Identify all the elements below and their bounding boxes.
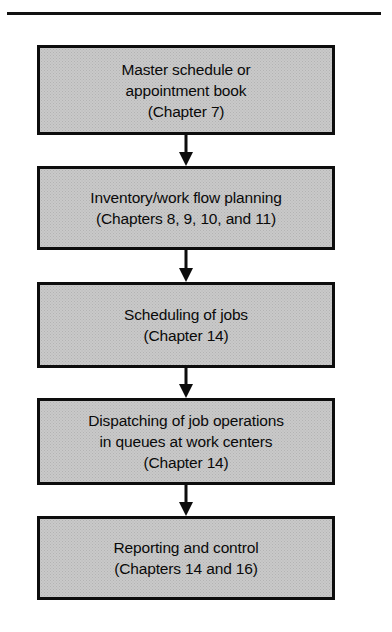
node-text-line: Inventory/work flow planning — [90, 187, 281, 208]
node-text-line: in queues at work centers — [100, 431, 273, 452]
arrow-stem — [185, 135, 188, 153]
node-text-line: Scheduling of jobs — [124, 304, 248, 325]
down-arrow-icon — [179, 135, 194, 166]
down-arrow-icon — [179, 250, 194, 282]
arrow-head — [179, 384, 193, 398]
arrow-head — [179, 152, 193, 166]
down-arrow-icon — [179, 368, 194, 398]
node-text-line: Reporting and control — [113, 537, 258, 558]
node-text-line: (Chapter 14) — [143, 452, 228, 473]
arrow-stem — [185, 368, 188, 385]
node-text-line: (Chapter 7) — [148, 101, 225, 122]
node-text-line: (Chapter 14) — [143, 325, 228, 346]
top-divider-rule — [7, 12, 381, 15]
process-flow-column: Master schedule or appointment book (Cha… — [37, 45, 335, 600]
node-text-line: (Chapters 8, 9, 10, and 11) — [96, 208, 276, 229]
connector-scheduling-to-dispatching — [37, 368, 335, 398]
process-node-dispatching-of-job-operations: Dispatching of job operations in queues … — [37, 398, 335, 485]
down-arrow-icon — [179, 485, 194, 516]
process-node-inventory-work-flow-planning: Inventory/work flow planning (Chapters 8… — [37, 166, 335, 250]
node-text-line: appointment book — [126, 80, 247, 101]
connector-master-to-inventory — [37, 135, 335, 166]
process-node-master-schedule: Master schedule or appointment book (Cha… — [37, 45, 335, 135]
arrow-head — [179, 502, 193, 516]
process-node-scheduling-of-jobs: Scheduling of jobs (Chapter 14) — [37, 282, 335, 368]
node-text-line: Dispatching of job operations — [88, 410, 284, 431]
connector-dispatching-to-reporting — [37, 485, 335, 516]
arrow-head — [179, 268, 193, 282]
connector-inventory-to-scheduling — [37, 250, 335, 282]
process-node-reporting-and-control: Reporting and control (Chapters 14 and 1… — [37, 516, 335, 600]
node-text-line: Master schedule or — [121, 59, 250, 80]
flowchart-figure: Master schedule or appointment book (Cha… — [0, 0, 392, 632]
node-text-line: (Chapters 14 and 16) — [114, 558, 257, 579]
arrow-stem — [185, 250, 188, 269]
arrow-stem — [185, 485, 188, 503]
